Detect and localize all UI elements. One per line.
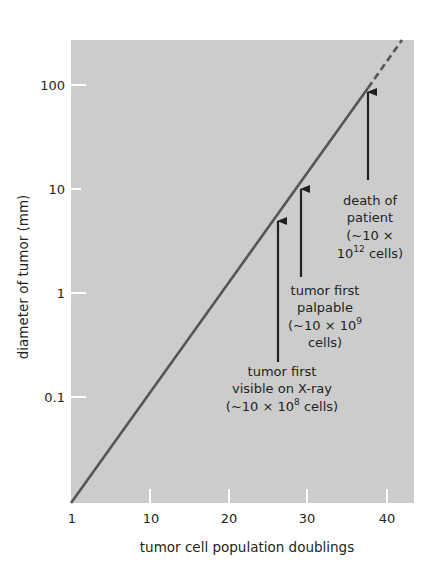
death-line-2: patient — [347, 210, 393, 225]
death-line-3: (~10 × — [346, 228, 394, 243]
y-tick-10: 10 — [48, 182, 65, 197]
palpable-line-4: cells) — [308, 335, 342, 350]
palpable-line-2: palpable — [297, 300, 353, 315]
plot-area — [71, 40, 414, 503]
xray-line-3: (~10 × 108 cells) — [226, 397, 338, 414]
tumor-growth-chart: 100 10 1 0.1 1 10 20 30 40 tumor cell po… — [0, 0, 435, 587]
xray-line-2: visible on X-ray — [232, 381, 332, 396]
y-axis-label: diameter of tumor (mm) — [15, 195, 31, 360]
x-tick-30: 30 — [299, 511, 316, 526]
y-tick-100: 100 — [40, 78, 65, 93]
x-tick-10: 10 — [143, 511, 160, 526]
palpable-line-3: (~10 × 109 — [288, 316, 362, 333]
x-tick-20: 20 — [221, 511, 238, 526]
x-axis-label: tumor cell population doublings — [140, 539, 354, 555]
death-line-4: 1012 cells) — [337, 244, 403, 261]
y-tick-1: 1 — [57, 286, 65, 301]
xray-line-1: tumor first — [248, 364, 317, 379]
x-tick-labels: 1 10 20 30 40 — [68, 511, 395, 526]
palpable-line-1: tumor first — [291, 283, 360, 298]
death-line-1: death of — [343, 193, 398, 208]
y-tick-0.1: 0.1 — [44, 390, 65, 405]
x-tick-1: 1 — [68, 511, 76, 526]
y-tick-labels: 100 10 1 0.1 — [40, 78, 65, 405]
x-tick-40: 40 — [379, 511, 396, 526]
